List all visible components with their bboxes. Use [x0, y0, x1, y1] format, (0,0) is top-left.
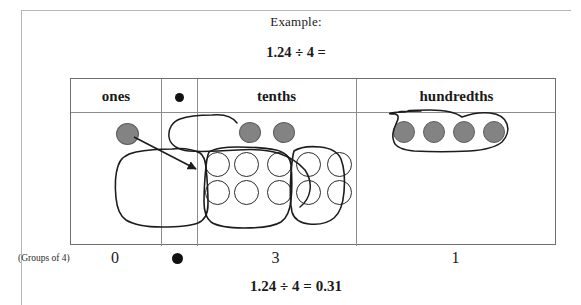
hundredths-filled-disc — [393, 121, 415, 143]
hundredths-filled-disc — [423, 121, 445, 143]
decimal-point-icon — [175, 93, 184, 102]
tenths-open-disc — [267, 152, 292, 177]
tenths-open-disc — [267, 180, 292, 205]
tenths-filled-disc — [273, 122, 295, 143]
column-divider-tenths-hundredths — [356, 79, 357, 246]
column-header-ones: ones — [71, 79, 161, 113]
answer-digit-tenths: 3 — [196, 246, 355, 270]
column-divider-ones-decimal — [161, 79, 162, 246]
answer-digit-ones: 0 — [70, 246, 160, 270]
ones-filled-disc — [116, 123, 139, 145]
tenths-filled-disc — [239, 122, 261, 143]
groups-of-label: (Groups of 4) — [18, 249, 70, 267]
tenths-open-disc — [296, 152, 321, 177]
tenths-open-disc — [205, 180, 230, 205]
tenths-open-disc — [327, 180, 352, 205]
table-header-row: ones tenths hundredths — [71, 79, 555, 113]
answer-digit-hundredths: 1 — [355, 246, 556, 270]
column-header-hundredths: hundredths — [356, 79, 557, 113]
column-header-tenths: tenths — [197, 79, 356, 113]
column-header-decimal-point — [161, 79, 197, 113]
tenths-open-disc — [234, 180, 259, 205]
example-label: Example: — [21, 14, 571, 30]
problem-statement: 1.24 ÷ 4 = — [21, 44, 571, 61]
tenths-open-disc — [234, 152, 259, 177]
answer-decimal-point-icon — [172, 253, 183, 264]
answer-digit-row: (Groups of 4) 0 3 1 — [0, 246, 581, 270]
column-divider-decimal-tenths — [197, 79, 198, 246]
place-value-table: ones tenths hundredths — [70, 78, 556, 245]
hundredths-filled-disc — [483, 121, 505, 143]
tenths-open-disc — [327, 152, 352, 177]
tenths-open-disc — [205, 152, 230, 177]
final-answer: 1.24 ÷ 4 = 0.31 — [21, 278, 571, 295]
tenths-open-disc — [296, 180, 321, 205]
hundredths-filled-disc — [453, 121, 475, 143]
